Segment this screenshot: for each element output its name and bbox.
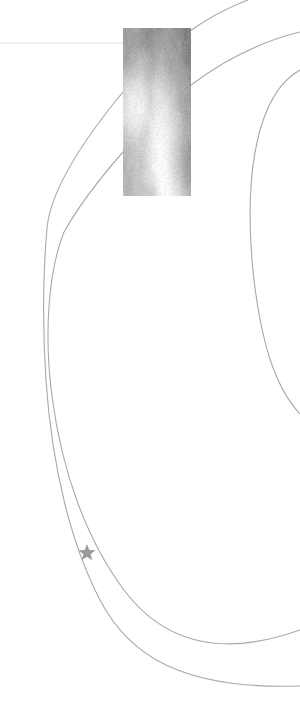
sky-chart-figure <box>0 0 300 711</box>
survey-image-canvas <box>123 28 191 196</box>
survey-image-cutout <box>123 28 191 196</box>
arc-right-outer <box>250 70 300 414</box>
arc-inner-lower <box>48 232 300 644</box>
arc-outer-lower <box>44 228 300 686</box>
